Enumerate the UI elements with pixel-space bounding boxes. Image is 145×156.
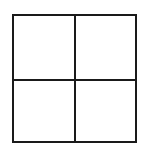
- cell-bottom-left: [14, 81, 74, 141]
- cell-bottom-right: [76, 81, 135, 141]
- two-by-two-grid: [12, 14, 137, 143]
- cell-top-left: [14, 16, 74, 79]
- cell-top-right: [76, 16, 135, 79]
- horizontal-divider: [14, 79, 135, 81]
